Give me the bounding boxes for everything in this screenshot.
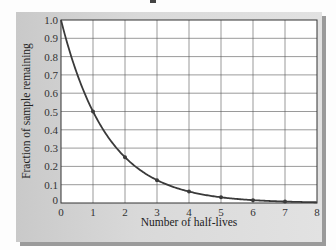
data-point <box>187 190 191 194</box>
x-axis-label: Number of half-lives <box>141 216 238 228</box>
x-tick-label: 8 <box>314 206 320 218</box>
x-tick-label: 1 <box>90 206 96 218</box>
y-axis-tick-labels: 00.10.20.30.40.50.60.70.80.91.0 <box>44 14 58 206</box>
x-tick-label: 2 <box>122 206 128 218</box>
data-point <box>91 110 95 114</box>
data-point <box>283 200 287 204</box>
y-tick-label: 0.3 <box>44 142 58 154</box>
y-tick-label: 0.5 <box>44 106 58 118</box>
y-tick-label: 0.7 <box>44 69 58 81</box>
y-axis-label: Fraction of sample remaining <box>20 43 33 179</box>
y-tick-label: 1.0 <box>44 14 58 26</box>
data-point <box>251 198 255 202</box>
y-tick-label: 0.6 <box>44 87 58 99</box>
x-tick-label: 7 <box>282 206 288 218</box>
y-tick-label: 0.8 <box>44 51 58 63</box>
x-tick-label: 0 <box>58 206 64 218</box>
y-tick-label: 0.2 <box>44 160 58 172</box>
y-tick-label: 0.4 <box>44 124 58 136</box>
data-point <box>219 195 223 199</box>
y-tick-label: 0.1 <box>44 179 58 191</box>
x-tick-label: 6 <box>250 206 256 218</box>
data-point <box>123 155 127 159</box>
y-tick-label: 0 <box>53 194 59 206</box>
data-point <box>155 178 159 182</box>
y-tick-label: 0.9 <box>44 32 58 44</box>
half-life-chart: 00.10.20.30.40.50.60.70.80.91.0 01234567… <box>0 0 336 250</box>
